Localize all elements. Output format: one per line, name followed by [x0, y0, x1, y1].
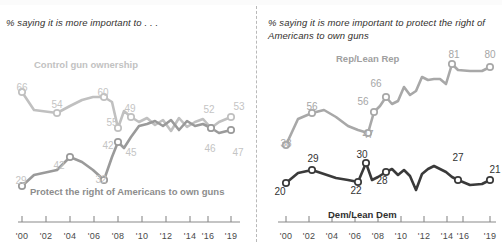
value-callout: 56 [357, 96, 368, 107]
data-marker [208, 125, 214, 131]
value-callout: 66 [370, 78, 381, 89]
value-callout: 66 [16, 82, 27, 93]
x-tick-label: '04 [326, 231, 338, 241]
data-marker [455, 177, 461, 183]
x-tick-label: '14 [184, 231, 196, 241]
x-tick-label: '14 [441, 231, 453, 241]
value-callout: 38 [280, 138, 291, 149]
value-callout: 28 [376, 175, 387, 186]
right-panel: % saying it is more important to protect… [258, 0, 502, 251]
data-marker [128, 114, 134, 120]
x-tick-label: '10 [136, 231, 148, 241]
data-marker [228, 127, 234, 133]
left-panel: % saying it is more important to . . . [0, 0, 252, 251]
x-tick-label: '02 [303, 231, 315, 241]
series-label-control: Control gun ownership [34, 59, 138, 71]
data-marker [363, 160, 369, 166]
value-callout: 54 [51, 99, 62, 110]
x-tick-label: '06 [349, 231, 361, 241]
panel-divider [256, 6, 257, 242]
data-marker [449, 61, 455, 67]
series-label-rep: Rep/Lean Rep [336, 53, 399, 65]
data-marker [309, 167, 315, 173]
value-callout: 60 [97, 87, 108, 98]
value-callout: 56 [306, 101, 317, 112]
value-callout: 22 [350, 185, 361, 196]
data-marker [54, 110, 60, 116]
value-callout: 46 [204, 143, 215, 154]
value-callout: 27 [452, 152, 463, 163]
value-callout: 20 [274, 186, 285, 197]
value-callout: 42 [53, 160, 64, 171]
value-callout: 29 [307, 153, 318, 164]
value-callout: 52 [203, 104, 214, 115]
x-tick-label: '00 [280, 231, 292, 241]
x-tick-label: '08 [372, 231, 384, 241]
x-tick-label: '12 [418, 231, 430, 241]
value-callout: 80 [484, 49, 495, 60]
data-marker [383, 94, 389, 100]
series-label-protect: Protect the right of Americans to own gu… [30, 186, 224, 198]
series-label-dem: Dem/Lean Dem [328, 209, 397, 221]
x-axis-ticks [22, 216, 231, 222]
left-x-axis-labels: '00 '02 '04 '06 '08 '10 '12 '14 '16 '19 [0, 231, 252, 245]
data-marker [115, 139, 121, 145]
series-label-protect-line1: Protect the right of Americans to own gu… [30, 186, 224, 197]
value-callout: 47 [362, 129, 373, 140]
value-callout: 49 [124, 103, 135, 114]
x-tick-label: '02 [40, 231, 52, 241]
value-callout: 55 [106, 117, 117, 128]
figure-root: % saying it is more important to . . . [0, 0, 502, 251]
right-x-axis-labels: '00 '02 '04 '06 '08 '10 '12 '14 '16 '19 [258, 231, 502, 245]
value-callout: 53 [233, 101, 244, 112]
value-callout: 42 [102, 140, 113, 151]
value-callout: 45 [125, 147, 136, 158]
data-marker [67, 154, 73, 160]
right-panel-plot [258, 0, 502, 232]
x-tick-label: '16 [202, 231, 214, 241]
value-callout: 30 [356, 149, 367, 160]
data-marker [487, 177, 493, 183]
value-callout: 47 [232, 147, 243, 158]
x-tick-label: '16 [457, 231, 469, 241]
x-tick-label: '19 [484, 231, 496, 241]
data-marker [487, 64, 493, 70]
x-tick-label: '19 [225, 231, 237, 241]
x-tick-label: '04 [64, 231, 76, 241]
x-tick-label: '06 [88, 231, 100, 241]
x-tick-label: '00 [16, 231, 28, 241]
x-tick-label: '12 [160, 231, 172, 241]
value-callout: 21 [489, 164, 500, 175]
data-marker [228, 114, 234, 120]
value-callout: 29 [15, 175, 26, 186]
value-callout: 32 [95, 174, 106, 185]
x-tick-label: '08 [112, 231, 124, 241]
x-tick-label: '10 [395, 231, 407, 241]
data-marker [371, 109, 377, 115]
value-callout: 81 [448, 49, 459, 60]
